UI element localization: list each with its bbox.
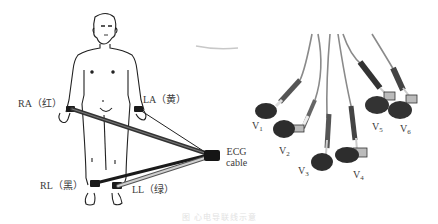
v5-label: V5	[372, 122, 383, 134]
v1-electrode-icon	[255, 80, 300, 119]
v2-electrode-icon	[273, 100, 315, 138]
scribble-mark	[196, 46, 238, 49]
ecg-lead-diagram: RA（红） LA（黄） RL（黑） LL（绿） ECG cable V1 V2 …	[0, 0, 438, 224]
ecg-connector-icon	[204, 150, 220, 161]
v3-label: V3	[298, 166, 309, 178]
ecg-cable-label-line1: ECG	[226, 146, 247, 157]
v1-label: V1	[252, 121, 263, 133]
la-label: LA（黄）	[143, 95, 186, 105]
v4-label: V4	[353, 170, 364, 182]
ll-label: LL（绿）	[132, 185, 174, 195]
ra-label: RA（红）	[18, 99, 62, 109]
v2-label: V2	[279, 146, 290, 158]
ecg-cable-label: ECG cable	[226, 146, 247, 168]
ecg-cable-label-line2: cable	[226, 157, 247, 168]
figure-caption: 图 心电导联线示意	[0, 211, 438, 222]
rl-label: RL（黑）	[40, 181, 83, 191]
v3-electrode-icon	[311, 114, 333, 171]
v6-label: V6	[400, 124, 411, 136]
limb-lead-cables	[72, 109, 208, 186]
v4-electrode-icon	[335, 106, 367, 163]
